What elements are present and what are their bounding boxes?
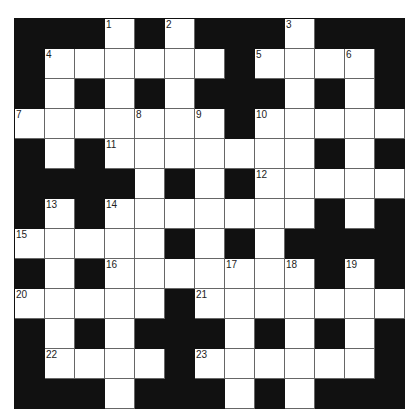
answer-cell[interactable] <box>345 109 375 139</box>
answer-cell[interactable]: 12 <box>255 169 285 199</box>
answer-cell[interactable] <box>315 109 345 139</box>
answer-cell[interactable] <box>105 79 135 109</box>
answer-cell[interactable] <box>105 49 135 79</box>
answer-cell[interactable]: 10 <box>255 109 285 139</box>
answer-cell[interactable] <box>135 49 165 79</box>
answer-cell[interactable] <box>45 319 75 349</box>
answer-cell[interactable] <box>165 259 195 289</box>
answer-cell[interactable] <box>285 169 315 199</box>
answer-cell[interactable] <box>255 289 285 319</box>
answer-cell[interactable] <box>75 49 105 79</box>
answer-cell[interactable] <box>315 349 345 379</box>
answer-cell[interactable]: 20 <box>15 289 45 319</box>
answer-cell[interactable]: 8 <box>135 109 165 139</box>
answer-cell[interactable] <box>375 169 405 199</box>
answer-cell[interactable]: 19 <box>345 259 375 289</box>
answer-cell[interactable] <box>315 169 345 199</box>
answer-cell[interactable] <box>45 259 75 289</box>
answer-cell[interactable] <box>105 109 135 139</box>
answer-cell[interactable] <box>285 109 315 139</box>
answer-cell[interactable] <box>135 169 165 199</box>
answer-cell[interactable]: 18 <box>285 259 315 289</box>
answer-cell[interactable]: 2 <box>165 19 195 49</box>
answer-cell[interactable] <box>225 319 255 349</box>
answer-cell[interactable] <box>195 199 225 229</box>
answer-cell[interactable] <box>285 139 315 169</box>
answer-cell[interactable] <box>195 139 225 169</box>
answer-cell[interactable] <box>195 259 225 289</box>
answer-cell[interactable] <box>375 109 405 139</box>
answer-cell[interactable] <box>225 349 255 379</box>
answer-cell[interactable] <box>255 349 285 379</box>
answer-cell[interactable]: 11 <box>105 139 135 169</box>
answer-cell[interactable] <box>135 139 165 169</box>
answer-cell[interactable] <box>225 289 255 319</box>
answer-cell[interactable]: 23 <box>195 349 225 379</box>
answer-cell[interactable]: 4 <box>45 49 75 79</box>
answer-cell[interactable] <box>105 229 135 259</box>
answer-cell[interactable] <box>285 199 315 229</box>
answer-cell[interactable] <box>285 319 315 349</box>
answer-cell[interactable]: 13 <box>45 199 75 229</box>
answer-cell[interactable] <box>135 289 165 319</box>
answer-cell[interactable]: 17 <box>225 259 255 289</box>
answer-cell[interactable] <box>345 319 375 349</box>
answer-cell[interactable]: 6 <box>345 49 375 79</box>
answer-cell[interactable] <box>195 229 225 259</box>
answer-cell[interactable]: 15 <box>15 229 45 259</box>
answer-cell[interactable] <box>165 139 195 169</box>
answer-cell[interactable] <box>375 289 405 319</box>
answer-cell[interactable] <box>225 379 255 409</box>
answer-cell[interactable] <box>75 289 105 319</box>
answer-cell[interactable] <box>45 109 75 139</box>
answer-cell[interactable] <box>225 199 255 229</box>
answer-cell[interactable] <box>285 349 315 379</box>
answer-cell[interactable] <box>45 139 75 169</box>
answer-cell[interactable] <box>75 109 105 139</box>
answer-cell[interactable] <box>105 319 135 349</box>
answer-cell[interactable] <box>345 139 375 169</box>
answer-cell[interactable] <box>255 229 285 259</box>
answer-cell[interactable] <box>225 139 255 169</box>
answer-cell[interactable]: 21 <box>195 289 225 319</box>
answer-cell[interactable] <box>315 49 345 79</box>
answer-cell[interactable] <box>285 79 315 109</box>
answer-cell[interactable]: 16 <box>105 259 135 289</box>
answer-cell[interactable]: 1 <box>105 19 135 49</box>
answer-cell[interactable] <box>105 349 135 379</box>
answer-cell[interactable] <box>75 229 105 259</box>
answer-cell[interactable] <box>135 259 165 289</box>
answer-cell[interactable] <box>315 289 345 319</box>
answer-cell[interactable] <box>285 379 315 409</box>
answer-cell[interactable] <box>255 259 285 289</box>
answer-cell[interactable] <box>165 109 195 139</box>
answer-cell[interactable] <box>45 289 75 319</box>
answer-cell[interactable] <box>345 289 375 319</box>
answer-cell[interactable]: 9 <box>195 109 225 139</box>
answer-cell[interactable] <box>345 79 375 109</box>
answer-cell[interactable] <box>45 79 75 109</box>
answer-cell[interactable] <box>345 169 375 199</box>
answer-cell[interactable] <box>105 379 135 409</box>
answer-cell[interactable]: 14 <box>105 199 135 229</box>
answer-cell[interactable] <box>45 229 75 259</box>
answer-cell[interactable]: 5 <box>255 49 285 79</box>
answer-cell[interactable] <box>255 139 285 169</box>
answer-cell[interactable] <box>345 199 375 229</box>
answer-cell[interactable] <box>135 229 165 259</box>
answer-cell[interactable] <box>285 49 315 79</box>
answer-cell[interactable] <box>255 199 285 229</box>
answer-cell[interactable]: 22 <box>45 349 75 379</box>
answer-cell[interactable]: 7 <box>15 109 45 139</box>
answer-cell[interactable] <box>105 289 135 319</box>
answer-cell[interactable] <box>135 199 165 229</box>
answer-cell[interactable] <box>285 289 315 319</box>
answer-cell[interactable] <box>135 349 165 379</box>
answer-cell[interactable] <box>75 349 105 379</box>
answer-cell[interactable] <box>165 199 195 229</box>
answer-cell[interactable] <box>345 349 375 379</box>
answer-cell[interactable] <box>195 49 225 79</box>
answer-cell[interactable] <box>165 79 195 109</box>
answer-cell[interactable] <box>195 169 225 199</box>
answer-cell[interactable] <box>165 49 195 79</box>
